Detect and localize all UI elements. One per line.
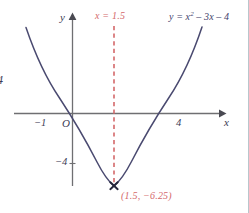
y-axis-arrowhead [69, 13, 77, 21]
quadratic-graph-figure: 4 y x O −1 4 −4 x = 1.5 y = x2 – 3x – 4 … [0, 0, 249, 213]
origin-label: O [62, 118, 70, 129]
equation-lhs: y = x [169, 11, 190, 22]
x-tick-label-minus-1: −1 [34, 118, 46, 129]
y-axis-label: y [60, 12, 65, 23]
axis-of-symmetry-label: x = 1.5 [95, 11, 125, 21]
equation-label: y = x2 – 3x – 4 [169, 11, 229, 22]
plot-canvas [0, 0, 249, 213]
x-tick-label-4: 4 [176, 118, 181, 129]
page-edge-rule [248, 0, 249, 213]
equation-rhs: – 3x – 4 [194, 11, 229, 22]
vertex-marker-icon [110, 182, 117, 189]
vertex-coordinate-label: (1.5, −6.25) [121, 191, 172, 201]
y-tick-label-minus-4: −4 [55, 157, 67, 168]
x-axis-label: x [224, 117, 229, 128]
